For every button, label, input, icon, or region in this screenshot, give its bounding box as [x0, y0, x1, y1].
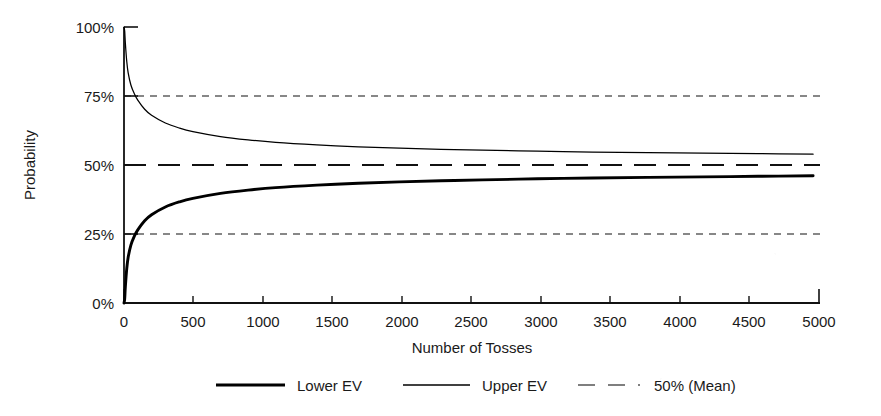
y-tick-label-50: 50%: [84, 157, 114, 174]
x-tick-label-1500: 1500: [315, 313, 348, 330]
legend-label-upper-ev: Upper EV: [482, 377, 547, 394]
chart-canvas: 100% 75% 50% 25% 0% 0 500 1000 1500 2000…: [0, 0, 881, 416]
x-tick-label-0: 0: [120, 313, 128, 330]
legend-item-lower-ev: Lower EV: [216, 377, 362, 394]
x-tick-label-4500: 4500: [732, 313, 765, 330]
legend-item-upper-ev: Upper EV: [403, 377, 547, 394]
x-tick-label-500: 500: [180, 313, 205, 330]
series-line-lower-ev: [124, 176, 813, 303]
x-tick-label-5000: 5000: [802, 313, 835, 330]
x-tick-label-1000: 1000: [246, 313, 279, 330]
x-tick-label-2500: 2500: [454, 313, 487, 330]
y-tick-label-0: 0%: [92, 295, 114, 312]
series-line-upper-ev: [124, 27, 813, 154]
y-axis-tick-labels: 100% 75% 50% 25% 0%: [76, 19, 114, 312]
y-tick-label-75: 75%: [84, 88, 114, 105]
x-tick-label-3500: 3500: [593, 313, 626, 330]
x-tick-label-2000: 2000: [385, 313, 418, 330]
y-tick-label-100: 100%: [76, 19, 114, 36]
coin-toss-probability-chart: 100% 75% 50% 25% 0% 0 500 1000 1500 2000…: [0, 0, 881, 416]
x-axis-tick-labels: 0 500 1000 1500 2000 2500 3000 3500 4000…: [120, 313, 836, 330]
y-tick-label-25: 25%: [84, 226, 114, 243]
x-axis-title: Number of Tosses: [412, 339, 533, 356]
y-axis-title: Probability: [21, 129, 38, 200]
legend-label-lower-ev: Lower EV: [297, 377, 362, 394]
x-tick-label-3000: 3000: [524, 313, 557, 330]
legend-label-mean: 50% (Mean): [654, 377, 736, 394]
chart-legend: Lower EV Upper EV 50% (Mean): [216, 377, 736, 394]
legend-item-mean: 50% (Mean): [578, 377, 736, 394]
x-tick-label-4000: 4000: [663, 313, 696, 330]
